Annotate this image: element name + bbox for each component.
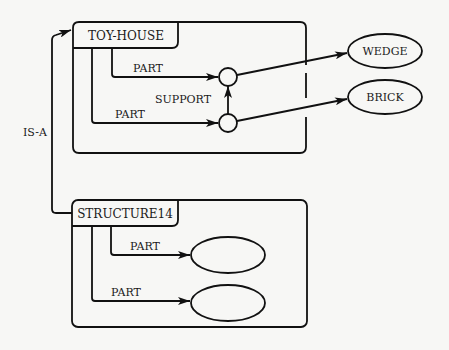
semantic-network-diagram: TOY-HOUSE PART PART SUPPORT WEDGE BRICK … (0, 0, 449, 350)
structure14-part-slot-2[interactable]: PART (92, 226, 190, 301)
node-wedge[interactable]: WEDGE (348, 34, 422, 68)
wedge-label: WEDGE (363, 45, 408, 58)
node-circle-upper[interactable] (219, 68, 237, 86)
brick-label: BRICK (366, 91, 404, 104)
is-a-label: IS-A (23, 126, 48, 139)
support-label: SUPPORT (155, 93, 212, 106)
part-arrow (112, 48, 218, 77)
part-label: PART (130, 240, 160, 253)
toy-house-part-slot-2[interactable]: PART (92, 48, 218, 123)
node-ellipse-empty-2[interactable] (191, 285, 265, 321)
link-arrow-to-wedge (237, 53, 347, 75)
node-ellipse-empty-1[interactable] (191, 237, 265, 273)
structure14-part-slot-1[interactable]: PART (111, 226, 190, 255)
is-a-link[interactable]: IS-A (23, 30, 72, 213)
node-circle-lower[interactable] (219, 114, 237, 132)
part-label: PART (133, 62, 163, 75)
link-arrow-to-brick (237, 99, 347, 121)
toy-house-title: TOY-HOUSE (88, 29, 164, 43)
part-arrow (92, 48, 218, 123)
structure14-title: STRUCTURE14 (77, 207, 173, 221)
part-arrow (92, 226, 190, 301)
part-label: PART (111, 286, 141, 299)
frame-toy-house[interactable]: TOY-HOUSE (73, 22, 306, 153)
node-brick[interactable]: BRICK (348, 80, 422, 114)
toy-house-part-slot-1[interactable]: PART (112, 48, 218, 77)
is-a-arrow (52, 30, 72, 213)
support-relation[interactable]: SUPPORT (155, 86, 228, 114)
frame-structure14[interactable]: STRUCTURE14 (72, 200, 307, 327)
part-label: PART (115, 108, 145, 121)
